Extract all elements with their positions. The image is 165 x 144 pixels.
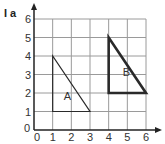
y-tick-label: 3 — [25, 69, 31, 81]
coordinate-grid-diagram: I a 01234560123456 AB — [0, 0, 165, 144]
tick-labels: 01234560123456 — [24, 13, 149, 143]
x-tick-label: 2 — [68, 131, 74, 143]
x-tick-label: 4 — [106, 131, 112, 143]
x-tick-label: 5 — [124, 131, 130, 143]
x-tick-label: 0 — [34, 131, 40, 143]
y-tick-label: 6 — [25, 13, 31, 25]
triangle-label-a: A — [64, 90, 72, 102]
x-tick-label: 6 — [143, 131, 149, 143]
y-tick-label: 0 — [24, 122, 30, 134]
triangle-label-b: B — [123, 66, 130, 78]
x-axis-arrow-icon — [155, 127, 162, 133]
y-tick-label: 4 — [25, 50, 31, 62]
x-tick-label: 1 — [50, 131, 56, 143]
y-axis-arrow-icon — [31, 3, 37, 10]
y-tick-label: 5 — [25, 32, 31, 44]
y-tick-label: 2 — [25, 87, 31, 99]
question-label: I a — [4, 7, 17, 19]
axes — [31, 3, 162, 133]
y-tick-label: 1 — [25, 106, 31, 118]
x-tick-label: 3 — [87, 131, 93, 143]
